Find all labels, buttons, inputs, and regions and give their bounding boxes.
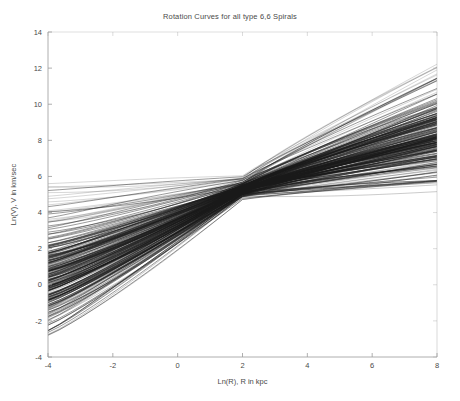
x-tick-label: -2 [109, 361, 116, 370]
y-tick-label: 4 [38, 208, 42, 217]
y-tick-label: -2 [35, 317, 42, 326]
curves-layer [48, 64, 437, 335]
y-axis-title: Ln(V), V in km/sec [9, 164, 18, 226]
x-tick-label: 6 [370, 361, 374, 370]
x-tick-label: 2 [240, 361, 244, 370]
y-tick-label: -4 [35, 353, 42, 362]
rotation-curves-plot: -4-202468101214-4-202468Ln(R), R in kpcL… [0, 0, 460, 401]
rotation-curve [48, 68, 437, 187]
x-tick-label: 4 [305, 361, 309, 370]
y-tick-label: 6 [38, 172, 42, 181]
x-axis-title: Ln(R), R in kpc [217, 377, 267, 386]
rotation-curve [48, 110, 437, 238]
x-tick-label: 0 [176, 361, 180, 370]
rotation-curve [48, 142, 437, 305]
x-tick-label: 8 [435, 361, 439, 370]
y-tick-label: 2 [38, 244, 42, 253]
figure-canvas: Rotation Curves for all type 6,6 Spirals… [0, 0, 460, 401]
rotation-curve [48, 153, 437, 290]
rotation-curve [48, 145, 437, 305]
y-tick-label: 10 [34, 100, 42, 109]
y-tick-label: 14 [34, 28, 42, 37]
x-tick-label: -4 [45, 361, 52, 370]
rotation-curve [48, 67, 437, 193]
y-tick-label: 12 [34, 64, 42, 73]
y-tick-label: 8 [38, 136, 42, 145]
y-tick-label: 0 [38, 280, 42, 289]
